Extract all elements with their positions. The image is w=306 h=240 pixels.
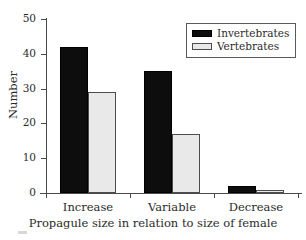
bar-increase-invertebrates [60, 47, 88, 193]
x-tick-mark [46, 193, 47, 198]
legend-swatch-invertebrates-icon [192, 30, 212, 37]
x-axis-title: Propagule size in relation to size of fe… [0, 216, 306, 230]
x-tick-mark [214, 193, 215, 198]
bar-variable-vertebrates [172, 134, 200, 193]
bar-decrease-vertebrates [256, 190, 284, 193]
legend: Invertebrates Vertebrates [186, 23, 296, 58]
y-tick-label: 0 [29, 186, 36, 199]
y-tick-label: 30 [23, 82, 36, 95]
caption-remnant [18, 231, 27, 234]
x-tick-label-increase: Increase [63, 200, 113, 214]
legend-item-invertebrates: Invertebrates [192, 27, 289, 40]
legend-swatch-vertebrates-icon [192, 43, 212, 50]
bar-chart-figure: 01020304050 IncreaseVariableDecrease Num… [0, 0, 306, 240]
y-tick-label: 50 [23, 12, 36, 25]
bar-decrease-invertebrates [228, 186, 256, 193]
x-tick-mark [130, 193, 131, 198]
y-tick-label: 40 [23, 47, 36, 60]
legend-label-vertebrates: Vertebrates [217, 40, 279, 53]
x-axis-line [40, 193, 302, 194]
legend-item-vertebrates: Vertebrates [192, 40, 289, 53]
y-axis-title: Number [6, 60, 20, 130]
y-tick-label: 20 [23, 116, 36, 129]
legend-label-invertebrates: Invertebrates [217, 27, 289, 40]
bar-variable-invertebrates [144, 71, 172, 193]
x-tick-mark [298, 193, 299, 198]
x-tick-label-variable: Variable [148, 200, 196, 214]
y-tick-label: 10 [23, 151, 36, 164]
bar-increase-vertebrates [88, 92, 116, 193]
x-tick-label-decrease: Decrease [229, 200, 283, 214]
